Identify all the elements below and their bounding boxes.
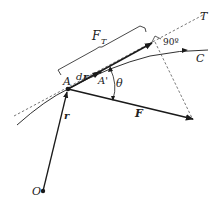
label-c: C bbox=[196, 52, 205, 65]
force-diagram: A A' O r d r F F T T C θ 90º bbox=[0, 0, 220, 206]
label-ft: F bbox=[91, 29, 101, 43]
label-90: 90º bbox=[163, 37, 179, 47]
tangent-line-t bbox=[14, 15, 203, 116]
tangential-force-bracket bbox=[58, 26, 146, 75]
label-dr-d: d bbox=[76, 71, 82, 82]
position-vector bbox=[43, 92, 67, 191]
right-angle-icon bbox=[151, 36, 161, 44]
label-t: T bbox=[200, 10, 209, 23]
label-f: F bbox=[134, 107, 144, 120]
label-a-prime: A' bbox=[97, 75, 108, 86]
force-vector bbox=[68, 89, 193, 119]
point-a-prime bbox=[98, 70, 101, 73]
label-a: A bbox=[62, 75, 71, 88]
curve-c bbox=[17, 50, 208, 125]
perpendicular-dashed-line bbox=[155, 42, 193, 120]
label-r: r bbox=[64, 110, 70, 121]
label-ft-sub: T bbox=[101, 37, 107, 46]
label-dr-r: r bbox=[83, 71, 89, 82]
label-o: O bbox=[32, 185, 41, 198]
point-o bbox=[41, 189, 45, 193]
label-theta: θ bbox=[116, 77, 123, 90]
angle-theta-arc bbox=[110, 68, 115, 99]
